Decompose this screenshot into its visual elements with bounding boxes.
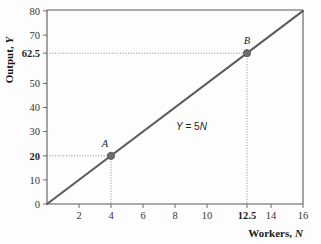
x-tick-label-10: 10 <box>202 210 213 221</box>
y-tick-label-50: 50 <box>30 78 41 89</box>
point-label-a: A <box>101 138 109 149</box>
production-function-line <box>47 11 303 204</box>
y-axis-title: Output,Y <box>3 35 15 83</box>
data-point-b <box>243 50 250 57</box>
x-tick-label-2: 2 <box>76 210 81 221</box>
y-tick-label-80: 80 <box>30 6 41 17</box>
equation-annotation: Y = 5N <box>176 121 208 132</box>
x-axis-title-group: Workers,N <box>248 227 304 239</box>
y-tick-label-0: 0 <box>35 199 40 210</box>
x-tick-label-8: 8 <box>172 210 177 221</box>
point-label-b: B <box>244 35 251 46</box>
x-axis-title: Workers,N <box>248 227 304 239</box>
production-function-chart: 0 10 20 30 40 50 62.5 70 80 2 4 6 8 10 1… <box>0 0 321 244</box>
x-axis-title-text: Workers, <box>248 227 292 239</box>
y-axis-title-text: Output, <box>3 46 15 83</box>
x-tick-label-12-5: 12.5 <box>238 210 256 221</box>
y-tick-marks <box>43 11 47 204</box>
y-tick-labels: 0 10 20 30 40 50 62.5 70 80 <box>22 6 40 210</box>
x-tick-label-4: 4 <box>108 210 114 221</box>
x-tick-label-14: 14 <box>266 210 277 221</box>
x-tick-label-6: 6 <box>140 210 145 221</box>
x-tick-labels: 2 4 6 8 10 12.5 14 16 <box>76 210 308 221</box>
y-tick-label-70: 70 <box>30 30 41 41</box>
equation-text: Y = 5N <box>176 121 208 132</box>
y-axis-title-var: Y <box>3 35 15 43</box>
y-tick-label-20: 20 <box>30 151 41 162</box>
x-tick-label-16: 16 <box>298 210 309 221</box>
data-point-a <box>107 152 114 159</box>
y-tick-label-40: 40 <box>30 102 41 113</box>
x-axis-title-var: N <box>294 227 304 239</box>
chart-figure: 0 10 20 30 40 50 62.5 70 80 2 4 6 8 10 1… <box>0 0 321 244</box>
equation-variable: N <box>200 121 208 132</box>
equation-operator: = <box>183 121 194 132</box>
y-axis-title-group: Output,Y <box>3 35 15 83</box>
y-tick-label-62-5: 62.5 <box>22 48 40 59</box>
y-tick-label-10: 10 <box>30 175 41 186</box>
x-tick-marks <box>79 204 303 208</box>
y-tick-label-30: 30 <box>30 126 41 137</box>
